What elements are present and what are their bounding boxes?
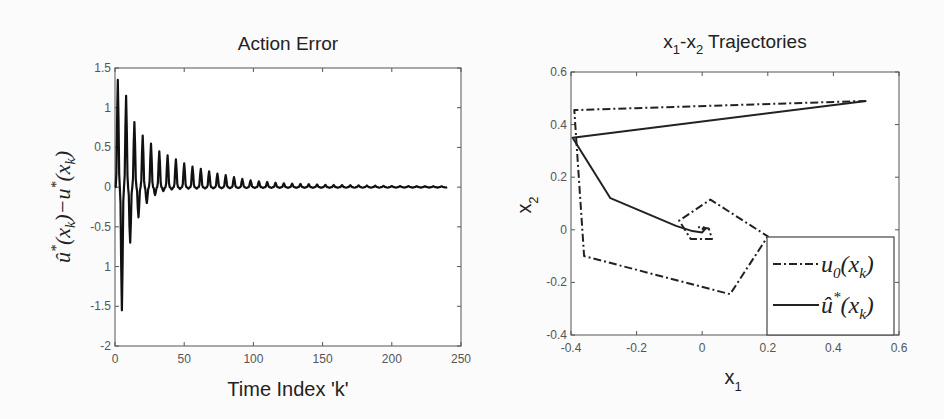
y-tick-label: 1.5 <box>94 61 111 75</box>
left-y-axis-label: û*(xk)−u*(xk) <box>49 151 78 263</box>
y-tick-label: 0 <box>104 180 111 194</box>
x-tick-label: -0.2 <box>626 341 647 355</box>
left-x-axis-label: Time Index 'k' <box>227 378 348 400</box>
y-tick-label: 0.6 <box>550 65 567 79</box>
x-tick-label: 0.4 <box>825 341 842 355</box>
left-plot-area <box>115 68 461 346</box>
x-tick-label: 0.6 <box>891 341 908 355</box>
y-tick-label: 0.5 <box>94 140 111 154</box>
y-tick-label: 1 <box>104 101 111 115</box>
right-chart-title: x1-x2 Trajectories <box>663 31 806 57</box>
action-error-chart: Action Error 0501001502002501.510.50-0.5… <box>49 33 471 400</box>
y-tick-label: 0.2 <box>550 170 567 184</box>
trajectories-chart: x1-x2 Trajectories -0.4-0.200.20.40.60.6… <box>513 31 908 394</box>
x-tick-label: 250 <box>451 352 471 366</box>
right-y-axis-label: x2 <box>513 196 541 213</box>
right-x-axis-label: x1 <box>724 366 741 394</box>
legend: u0(xk) û*(xk) <box>767 237 894 335</box>
x-tick-label: -0.4 <box>561 341 582 355</box>
x-tick-label: 0.2 <box>759 341 776 355</box>
y-tick-label: 1 <box>104 260 111 274</box>
x-tick-label: 150 <box>313 352 333 366</box>
x-tick-label: 200 <box>382 352 402 366</box>
y-tick-label: -0.5 <box>90 220 111 234</box>
figure: Action Error 0501001502002501.510.50-0.5… <box>0 0 944 419</box>
x-tick-label: 0 <box>699 341 706 355</box>
x-tick-label: 0 <box>112 352 119 366</box>
y-tick-label: -0.2 <box>546 275 567 289</box>
left-chart-title: Action Error <box>238 33 339 54</box>
y-tick-label: -1.5 <box>90 299 111 313</box>
svg-text:û*(xk)−u*(xk): û*(xk)−u*(xk) <box>49 151 78 263</box>
x-tick-label: 100 <box>243 352 263 366</box>
y-tick-label: -2 <box>100 339 111 353</box>
y-tick-label: 0 <box>560 223 567 237</box>
legend-u0-label: u0(xk) <box>821 251 874 281</box>
legend-uhat-label: û*(xk) <box>821 289 874 322</box>
y-tick-label: -0.4 <box>546 328 567 342</box>
y-tick-label: 0.4 <box>550 118 567 132</box>
x-tick-label: 50 <box>178 352 192 366</box>
